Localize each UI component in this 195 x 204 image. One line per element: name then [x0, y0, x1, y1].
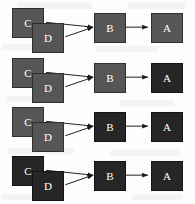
- diagram-figure: CDBACDBACDBACDBA: [0, 0, 195, 204]
- diagram-row: CDBA: [0, 6, 195, 58]
- node-d[interactable]: D: [32, 23, 64, 53]
- node-label: A: [163, 23, 171, 34]
- diagram-row: CDBA: [0, 154, 195, 204]
- diagram-row: CDBA: [0, 56, 195, 108]
- node-label: B: [106, 122, 113, 133]
- node-a[interactable]: A: [151, 112, 183, 142]
- node-d[interactable]: D: [32, 73, 64, 103]
- node-label: D: [44, 33, 52, 44]
- node-label: A: [163, 122, 171, 133]
- node-b[interactable]: B: [94, 63, 126, 93]
- node-label: D: [44, 132, 52, 143]
- node-d[interactable]: D: [32, 171, 64, 201]
- node-label: A: [163, 73, 171, 84]
- node-d[interactable]: D: [32, 122, 64, 152]
- node-label: C: [24, 68, 31, 79]
- node-label: A: [163, 171, 171, 182]
- node-a[interactable]: A: [151, 63, 183, 93]
- edge-d-to-b: [65, 175, 93, 185]
- node-label: B: [106, 171, 113, 182]
- node-b[interactable]: B: [94, 13, 126, 43]
- node-b[interactable]: B: [94, 161, 126, 191]
- node-label: C: [24, 166, 31, 177]
- node-label: C: [24, 117, 31, 128]
- edge-d-to-b: [65, 77, 93, 87]
- edge-d-to-b: [65, 27, 93, 37]
- node-b[interactable]: B: [94, 112, 126, 142]
- node-label: B: [106, 23, 113, 34]
- diagram-row: CDBA: [0, 105, 195, 157]
- edge-d-to-b: [65, 126, 93, 136]
- node-label: D: [44, 83, 52, 94]
- node-a[interactable]: A: [151, 13, 183, 43]
- node-a[interactable]: A: [151, 161, 183, 191]
- node-label: B: [106, 73, 113, 84]
- node-label: C: [24, 18, 31, 29]
- node-label: D: [44, 181, 52, 192]
